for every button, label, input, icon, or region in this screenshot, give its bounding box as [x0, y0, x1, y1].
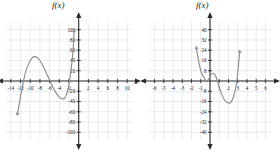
svg-text:-8: -8	[38, 85, 43, 91]
svg-text:6: 6	[264, 85, 267, 91]
svg-text:-80: -80	[68, 119, 75, 125]
svg-text:-20: -20	[68, 88, 75, 94]
svg-text:-24: -24	[200, 109, 207, 115]
svg-text:4: 4	[246, 85, 249, 91]
svg-text:-4: -4	[57, 85, 62, 91]
right-axes	[140, 12, 280, 150]
svg-text:-40: -40	[68, 98, 75, 104]
svg-text:-16: -16	[200, 98, 207, 104]
svg-text:6: 6	[106, 85, 109, 91]
right-graph-panel: f(x) -6-5-4-3-2-1123456403224168-8-16-24…	[140, 0, 280, 156]
svg-text:-6: -6	[152, 85, 157, 91]
svg-text:24: 24	[201, 47, 207, 53]
svg-text:-5: -5	[162, 85, 167, 91]
left-graph-svg: -14-12-10-8-6-4-224681010080604020-20-40…	[0, 0, 140, 156]
right-graph-svg: -6-5-4-3-2-1123456403224168-8-16-24-32-4…	[140, 0, 280, 156]
svg-text:4: 4	[97, 85, 100, 91]
svg-text:-8: -8	[202, 88, 207, 94]
svg-text:-3: -3	[180, 85, 185, 91]
left-graph-panel: f(x) -14-12-10-8-6-4-224681010080604020-…	[0, 0, 140, 156]
svg-text:2: 2	[87, 85, 90, 91]
left-xaxis-label: x	[133, 77, 138, 86]
svg-text:-4: -4	[171, 85, 176, 91]
svg-text:-12: -12	[17, 85, 24, 91]
svg-text:-2: -2	[189, 85, 194, 91]
svg-text:10: 10	[125, 85, 131, 91]
svg-text:8: 8	[116, 85, 119, 91]
svg-text:40: 40	[201, 27, 207, 33]
svg-text:-10: -10	[27, 85, 34, 91]
svg-text:32: 32	[201, 37, 207, 43]
svg-text:-40: -40	[200, 129, 207, 135]
svg-text:5: 5	[255, 85, 258, 91]
left-curve	[16, 29, 76, 116]
svg-text:80: 80	[70, 37, 76, 43]
svg-text:2: 2	[227, 85, 230, 91]
svg-text:-14: -14	[7, 85, 14, 91]
svg-text:3: 3	[236, 85, 239, 91]
svg-text:-60: -60	[68, 109, 75, 115]
svg-text:16: 16	[201, 57, 207, 63]
right-curve	[195, 46, 242, 103]
svg-text:-100: -100	[66, 129, 76, 135]
svg-text:-6: -6	[47, 85, 52, 91]
svg-text:-32: -32	[200, 119, 207, 125]
two-graph-figure: f(x) -14-12-10-8-6-4-224681010080604020-…	[0, 0, 280, 156]
